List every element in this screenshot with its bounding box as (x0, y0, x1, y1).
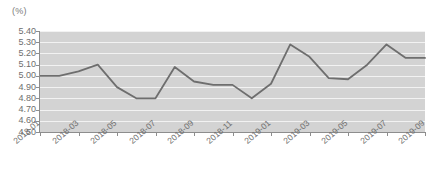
y-axis-tick-labels: 5.405.305.205.105.004.904.804.704.604.50 (0, 0, 36, 189)
x-tick-mark (271, 133, 272, 136)
x-tick-mark (156, 133, 157, 136)
x-tick-mark (387, 133, 388, 136)
x-tick-mark (79, 133, 80, 136)
y-tick-label: 5.10 (18, 60, 36, 69)
y-tick-mark (36, 65, 39, 66)
x-tick-mark (425, 133, 426, 136)
y-tick-label: 4.70 (18, 105, 36, 114)
y-tick-mark (36, 87, 39, 88)
y-tick-mark (36, 121, 39, 122)
y-tick-label: 5.40 (18, 27, 36, 36)
y-tick-mark (36, 31, 39, 32)
y-axis-line (39, 31, 40, 133)
series-line-rate (40, 31, 425, 132)
y-tick-mark (36, 98, 39, 99)
plot-area (40, 31, 425, 132)
y-tick-mark (36, 53, 39, 54)
x-tick-mark (117, 133, 118, 136)
y-tick-label: 5.30 (18, 38, 36, 47)
x-tick-mark (233, 133, 234, 136)
x-tick-mark (348, 133, 349, 136)
y-tick-label: 4.80 (18, 94, 36, 103)
x-tick-mark (310, 133, 311, 136)
y-tick-mark (36, 110, 39, 111)
y-tick-mark (36, 132, 39, 133)
x-tick-mark (194, 133, 195, 136)
y-tick-mark (36, 76, 39, 77)
x-tick-mark (40, 133, 41, 136)
y-tick-label: 4.90 (18, 83, 36, 92)
y-tick-label: 5.00 (18, 71, 36, 80)
line-chart: (%) 5.405.305.205.105.004.904.804.704.60… (0, 0, 433, 189)
y-tick-mark (36, 42, 39, 43)
y-tick-label: 5.20 (18, 49, 36, 58)
